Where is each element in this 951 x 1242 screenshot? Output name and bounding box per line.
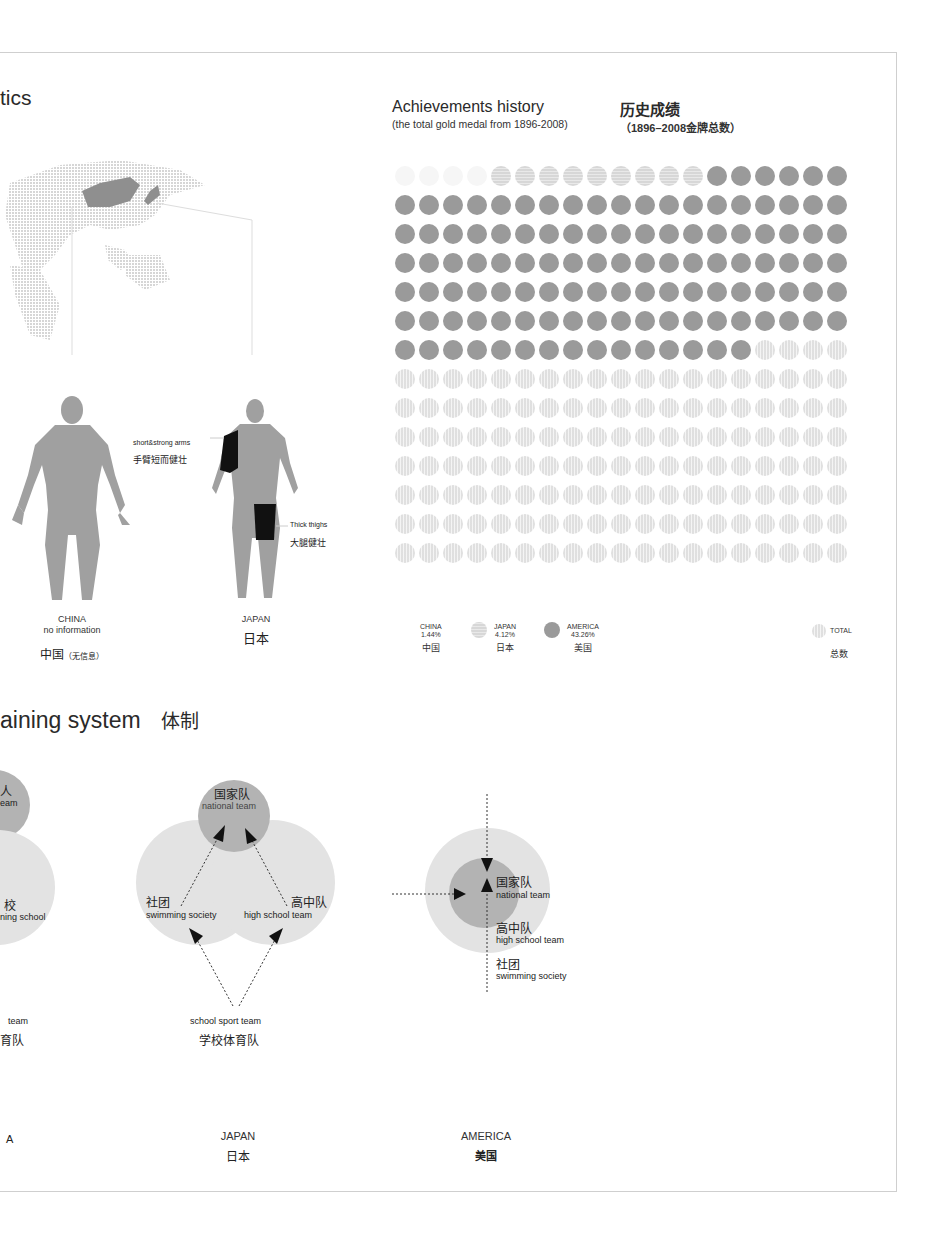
dot-america bbox=[635, 340, 655, 360]
dot-total bbox=[779, 398, 799, 418]
dot-total bbox=[707, 543, 727, 563]
dot-total bbox=[467, 514, 487, 534]
dot-america bbox=[515, 195, 535, 215]
dot-america bbox=[395, 282, 415, 302]
dot-total bbox=[779, 543, 799, 563]
dot-total bbox=[587, 456, 607, 476]
japan-school-en: school sport team bbox=[190, 1016, 261, 1026]
china-label-cn-wrap: 中国（无信息） bbox=[22, 645, 122, 662]
legend-america-swatch bbox=[544, 622, 560, 638]
dot-total bbox=[395, 514, 415, 534]
dot-america bbox=[467, 224, 487, 244]
dot-america bbox=[707, 195, 727, 215]
dot-total bbox=[731, 514, 751, 534]
dot-america bbox=[563, 224, 583, 244]
dot-total bbox=[803, 340, 823, 360]
dot-total bbox=[539, 543, 559, 563]
dot-america bbox=[587, 282, 607, 302]
dot-america bbox=[563, 282, 583, 302]
dot-total bbox=[587, 485, 607, 505]
dot-total bbox=[659, 427, 679, 447]
legend-america-cn: 美国 bbox=[567, 644, 599, 652]
legend-america: AMERICA 43.26% 美国 bbox=[567, 623, 599, 652]
dot-total bbox=[611, 456, 631, 476]
dot-total bbox=[683, 514, 703, 534]
dot-america bbox=[539, 224, 559, 244]
japan-highschool-cn: 高中队 bbox=[291, 893, 327, 910]
dot-total bbox=[707, 456, 727, 476]
dot-total bbox=[515, 369, 535, 389]
dot-total bbox=[803, 485, 823, 505]
dot-total bbox=[827, 514, 847, 534]
dot-america bbox=[659, 253, 679, 273]
china-note-en: no information bbox=[22, 625, 122, 636]
dot-total bbox=[659, 514, 679, 534]
dot-america bbox=[515, 340, 535, 360]
dot-total bbox=[755, 369, 775, 389]
legend-total-swatch bbox=[812, 624, 826, 638]
dot-america bbox=[779, 282, 799, 302]
dot-total bbox=[803, 369, 823, 389]
america-training-label-en: AMERICA bbox=[436, 1131, 536, 1142]
dot-america bbox=[419, 311, 439, 331]
dot-america bbox=[683, 340, 703, 360]
dot-total bbox=[587, 514, 607, 534]
dot-total bbox=[659, 369, 679, 389]
dot-total bbox=[419, 514, 439, 534]
dot-total bbox=[467, 543, 487, 563]
dot-total bbox=[539, 514, 559, 534]
dot-total bbox=[467, 398, 487, 418]
dot-total bbox=[635, 543, 655, 563]
dot-america bbox=[419, 224, 439, 244]
world-map bbox=[0, 155, 280, 355]
dot-america bbox=[803, 195, 823, 215]
dot-america bbox=[491, 253, 511, 273]
america-training-label-cn: 美国 bbox=[436, 1147, 536, 1163]
dot-america bbox=[443, 340, 463, 360]
china-sport-cn: 育队 bbox=[0, 1031, 24, 1048]
dot-total bbox=[611, 369, 631, 389]
dot-total bbox=[443, 456, 463, 476]
dot-america bbox=[491, 340, 511, 360]
dot-america bbox=[491, 195, 511, 215]
dot-total bbox=[635, 398, 655, 418]
dot-america bbox=[779, 311, 799, 331]
dot-china bbox=[419, 166, 439, 186]
japan-society-cn: 社团 bbox=[146, 893, 170, 910]
dot-total bbox=[755, 456, 775, 476]
annotation-thighs-cn: 大腿健壮 bbox=[290, 536, 326, 549]
legend-america-name: AMERICA bbox=[567, 623, 599, 631]
dot-total bbox=[827, 427, 847, 447]
dot-total bbox=[611, 427, 631, 447]
dot-total bbox=[707, 398, 727, 418]
achievements-subtitle-cn: （1896–2008金牌总数） bbox=[620, 119, 741, 135]
dot-america bbox=[827, 253, 847, 273]
dot-america bbox=[707, 311, 727, 331]
annotation-arms-cn: 手臂短而健壮 bbox=[133, 453, 187, 466]
dot-total bbox=[827, 340, 847, 360]
dot-japan bbox=[635, 166, 655, 186]
dot-total bbox=[731, 485, 751, 505]
japan-school-cn: 学校体育队 bbox=[199, 1031, 259, 1048]
dot-total bbox=[443, 398, 463, 418]
america-national-cn: 国家队 bbox=[496, 873, 532, 890]
dot-total bbox=[779, 369, 799, 389]
dot-america bbox=[419, 282, 439, 302]
dot-total bbox=[467, 427, 487, 447]
dot-total bbox=[419, 398, 439, 418]
dot-total bbox=[491, 427, 511, 447]
america-society-cn: 社团 bbox=[496, 955, 520, 972]
dot-total bbox=[515, 485, 535, 505]
dot-total bbox=[755, 427, 775, 447]
dot-total bbox=[419, 427, 439, 447]
dot-total bbox=[803, 456, 823, 476]
dot-total bbox=[755, 485, 775, 505]
china-school-cn: 校 bbox=[4, 896, 16, 913]
dot-total bbox=[611, 485, 631, 505]
dot-total bbox=[563, 369, 583, 389]
dot-total bbox=[539, 369, 559, 389]
dot-america bbox=[587, 253, 607, 273]
dot-america bbox=[827, 195, 847, 215]
dot-america bbox=[827, 282, 847, 302]
dot-total bbox=[683, 398, 703, 418]
